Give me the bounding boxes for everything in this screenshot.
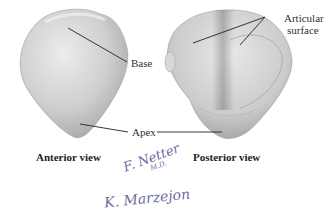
label-apex: Apex [132,126,156,138]
anterior-patella-shape [20,9,128,138]
caption-anterior-view: Anterior view [36,151,101,163]
label-base: Base [131,57,152,69]
label-articular-surface-1: Articular [284,12,324,24]
label-articular-surface-2: surface [287,24,319,36]
caption-posterior-view: Posterior view [193,151,260,163]
patella-illustration [0,0,335,216]
